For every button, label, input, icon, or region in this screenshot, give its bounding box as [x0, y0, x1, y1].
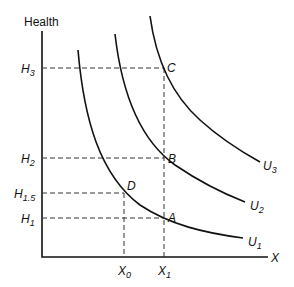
x-tick-x1: X1 — [157, 264, 171, 280]
guide-lines — [42, 68, 164, 257]
point-a: A — [167, 211, 176, 225]
curve-label-u1: U1 — [248, 235, 262, 251]
point-c: C — [167, 61, 176, 75]
y-tick-h15: H1.5 — [14, 187, 36, 203]
y-tick-h3: H3 — [21, 62, 35, 78]
curve-u3 — [150, 16, 260, 162]
curve-u2 — [115, 34, 245, 202]
x-axis-label: X — [270, 251, 280, 265]
y-axis-label: Health — [24, 15, 59, 29]
axes — [42, 31, 268, 257]
point-b: B — [168, 152, 176, 166]
x-tick-x0: X0 — [117, 264, 131, 280]
curve-label-u3: U3 — [263, 159, 277, 175]
point-d: D — [127, 179, 136, 193]
curve-label-u2: U2 — [250, 199, 264, 215]
curve-u1 — [78, 50, 243, 238]
indifference-curve-diagram: Health X H3 H2 H1.5 H1 X0 X1 A B C D U1 … — [0, 0, 294, 287]
y-tick-h1: H1 — [21, 212, 35, 228]
y-tick-h2: H2 — [21, 152, 35, 168]
